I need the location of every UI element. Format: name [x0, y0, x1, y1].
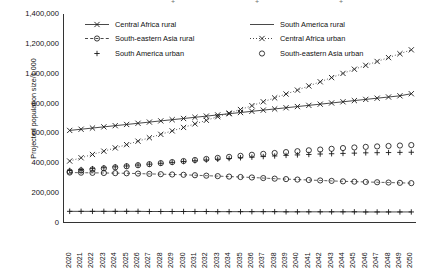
series-central-africa-rural [67, 91, 414, 133]
x-axis-tick: 2028 [156, 228, 163, 268]
top-edge-artifact-3: + [339, 0, 343, 5]
legend-label: South America rural [280, 20, 345, 29]
x-axis-tick: 2037 [258, 228, 265, 268]
x-axis-tick: 2044 [338, 228, 345, 268]
legend-label: South America urban [115, 49, 184, 58]
x-axis-tick: 2031 [190, 228, 197, 268]
y-axis-tick: 800,000 [3, 99, 59, 108]
x-axis-tick: 2049 [395, 228, 402, 268]
series-central-africa-urban [67, 47, 414, 163]
x-axis-tick: 2021 [76, 228, 83, 268]
y-axis-tick: 200,000 [3, 188, 59, 197]
legend-label: Central Africa urban [280, 34, 345, 43]
chart-figure: + + + Projected population size/1,000 02… [0, 0, 423, 268]
y-axis-tick: 1,000,000 [3, 69, 59, 78]
legend-label: Central Africa rural [115, 20, 176, 29]
x-axis-tick: 2038 [270, 228, 277, 268]
y-axis-tick: 600,000 [3, 128, 59, 137]
x-axis-tick: 2048 [384, 228, 391, 268]
x-axis-tick: 2026 [133, 228, 140, 268]
x-axis-tick: 2036 [247, 228, 254, 268]
legend-item-central-africa-rural[interactable]: Central Africa rural [84, 20, 249, 29]
legend-key-central-africa-rural-icon [84, 20, 110, 29]
x-axis-tick: 2039 [281, 228, 288, 268]
legend-key-south-eastern-asia-rural-icon [84, 34, 110, 43]
chart-legend: Central Africa ruralSouth America ruralS… [84, 17, 414, 61]
x-axis-tick: 2035 [236, 228, 243, 268]
x-axis-tick: 2046 [361, 228, 368, 268]
y-axis-tick: 1,400,000 [3, 9, 59, 18]
top-edge-artifact-2: + [255, 0, 259, 5]
x-axis-tick: 2043 [327, 228, 334, 268]
x-axis-tick: 2029 [167, 228, 174, 268]
x-axis-tick: 2023 [99, 228, 106, 268]
legend-item-south-eastern-asia-urban[interactable]: South-eastern Asia urban [249, 49, 414, 58]
x-axis-tick: 2024 [110, 228, 117, 268]
legend-key-central-africa-urban-icon [249, 34, 275, 43]
top-edge-artifact-1: + [171, 0, 175, 5]
x-axis-tick: 2040 [292, 228, 299, 268]
x-axis-tick: 2020 [65, 228, 72, 268]
x-axis-tick: 2027 [144, 228, 151, 268]
y-axis-tick: 0 [3, 218, 59, 227]
legend-item-south-america-urban[interactable]: South America urban [84, 49, 249, 58]
x-axis-tick: 2032 [201, 228, 208, 268]
series-south-eastern-asia-rural [67, 170, 414, 186]
x-axis-tick: 2033 [213, 228, 220, 268]
x-axis-tick: 2034 [224, 228, 231, 268]
legend-key-south-america-urban-icon [84, 49, 110, 58]
legend-label: South-eastern Asia urban [280, 49, 363, 58]
x-axis-tick: 2025 [122, 228, 129, 268]
legend-item-south-america-rural[interactable]: South America rural [249, 20, 414, 29]
legend-key-south-eastern-asia-urban-icon [249, 49, 275, 58]
x-axis-tick: 2022 [87, 228, 94, 268]
x-axis-tick: 2045 [349, 228, 356, 268]
x-axis-tick: 2050 [406, 228, 413, 268]
y-axis-tick-labels: 0200,000400,000600,000800,0001,000,0001,… [0, 0, 59, 268]
y-axis-tick: 400,000 [3, 158, 59, 167]
x-axis-tick: 2030 [179, 228, 186, 268]
x-axis-tick: 2047 [372, 228, 379, 268]
legend-item-south-eastern-asia-rural[interactable]: South-eastern Asia rural [84, 34, 249, 43]
x-axis-tick: 2041 [304, 228, 311, 268]
legend-item-central-africa-urban[interactable]: Central Africa urban [249, 34, 414, 43]
series-south-america-rural [67, 209, 414, 215]
legend-key-south-america-rural-icon [249, 20, 275, 29]
legend-label: South-eastern Asia rural [115, 34, 194, 43]
x-axis-tick: 2042 [315, 228, 322, 268]
y-axis-tick: 1,200,000 [3, 39, 59, 48]
x-axis-tick-labels: 2020202120222023202420252026202720282029… [63, 225, 416, 268]
